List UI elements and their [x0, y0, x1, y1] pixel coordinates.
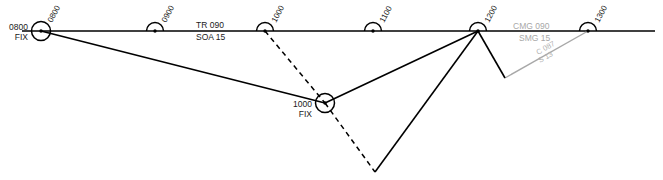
fix-1000-center-dot	[323, 101, 326, 104]
fix-0800-fix-text: FIX	[15, 32, 29, 42]
fix-0800-label: 0800FIX	[9, 22, 28, 42]
time-mark-1000[interactable]: 1000	[257, 4, 287, 33]
time-label-1000: 1000	[270, 4, 287, 24]
mark-center-dot-1200	[476, 29, 479, 32]
planned-track-fix-to-vertex	[325, 103, 375, 172]
leg-1000fix-to-1200	[325, 31, 478, 103]
course-made-good-label: CMG 090	[513, 21, 550, 31]
time-label-1200: 1200	[483, 4, 500, 24]
leg-1200-to-vertex	[375, 31, 478, 172]
planned-track-1000-to-fix	[265, 31, 325, 103]
mark-center-dot-1300	[586, 29, 589, 32]
track-speed-label: SOA 15	[196, 32, 226, 42]
time-mark-1200[interactable]: 1200	[470, 4, 500, 33]
time-label-1300: 1300	[593, 4, 610, 24]
fix-1000-time-text: 1000	[293, 99, 312, 109]
fix-0800-time-text: 0800	[9, 22, 28, 32]
mark-center-dot-0900	[153, 29, 156, 32]
time-label-0900: 0900	[160, 4, 177, 24]
time-mark-1100[interactable]: 1100	[365, 4, 395, 33]
mark-center-dot-0800	[39, 29, 42, 32]
time-mark-1300[interactable]: 1300	[580, 4, 610, 33]
fix-1000-label: 1000FIX	[293, 99, 312, 119]
leg-1200-to-drift	[478, 31, 505, 78]
time-mark-0900[interactable]: 0900	[147, 4, 177, 33]
navigation-plot-diagram: 0800090010001100120013000800FIX1000FIXTR…	[0, 0, 663, 180]
navigation-plot-canvas: 0800090010001100120013000800FIX1000FIXTR…	[0, 0, 663, 180]
time-label-1100: 1100	[378, 4, 394, 24]
mark-center-dot-1100	[371, 29, 374, 32]
fix-1000-fix-text: FIX	[299, 109, 313, 119]
mark-center-dot-1000	[263, 29, 266, 32]
speed-made-good-label: SMG 15	[519, 33, 550, 43]
time-label-0800: 0800	[46, 4, 63, 24]
track-heading-label: TR 090	[196, 20, 224, 30]
leg-0800-to-1000fix	[41, 31, 325, 103]
